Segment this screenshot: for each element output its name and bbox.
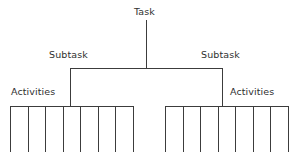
- right-activities-teeth: [166, 106, 289, 152]
- activities-label-right: Activities: [228, 86, 276, 97]
- subtask-label-left: Subtask: [47, 49, 90, 60]
- left-activities-teeth: [11, 106, 134, 152]
- task-label: Task: [132, 6, 157, 17]
- wbs-tree-graphic: [0, 0, 293, 159]
- subtask-label-right: Subtask: [199, 49, 242, 60]
- activities-label-left: Activities: [9, 86, 57, 97]
- wbs-diagram: Task Subtask Subtask Activities Activiti…: [0, 0, 293, 159]
